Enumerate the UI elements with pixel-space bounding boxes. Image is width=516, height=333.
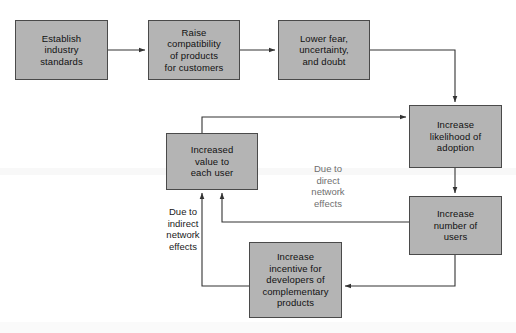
edge-fear-to-adoption <box>370 50 455 102</box>
node-label: Increasenumber ofusers <box>413 208 498 243</box>
node-raise-compatibility[interactable]: Raisecompatibilityof productsfor custome… <box>148 20 240 80</box>
node-establish-industry-standards[interactable]: Establishindustrystandards <box>15 20 108 80</box>
node-label: Increasedvalue toeach user <box>170 144 254 179</box>
node-increase-number-of-users[interactable]: Increasenumber ofusers <box>409 196 502 255</box>
node-increase-likelihood-of-adoption[interactable]: Increaselikelihood ofadoption <box>409 105 502 168</box>
edge-label-direct-network-effects: Due todirectnetworkeffects <box>297 163 359 209</box>
node-label: Establishindustrystandards <box>19 33 104 68</box>
node-label: Increaselikelihood ofadoption <box>413 119 498 154</box>
node-label: Lower fear,uncertainty,and doubt <box>282 33 366 68</box>
flowchart-canvas: Establishindustrystandards Raisecompatib… <box>0 0 516 333</box>
edge-value-to-adoption <box>202 117 406 133</box>
edge-users-to-incentive <box>345 255 455 286</box>
node-lower-fear-uncertainty-doubt[interactable]: Lower fear,uncertainty,and doubt <box>278 20 370 80</box>
edge-label-indirect-network-effects: Due toindirectnetworkeffects <box>155 206 211 252</box>
node-label: Increaseincentive fordevelopers ofcomple… <box>253 251 338 309</box>
node-increased-value-to-each-user[interactable]: Increasedvalue toeach user <box>166 133 258 190</box>
node-increase-incentive-for-developers[interactable]: Increaseincentive fordevelopers ofcomple… <box>249 242 342 318</box>
node-label: Raisecompatibilityof productsfor custome… <box>152 27 236 73</box>
